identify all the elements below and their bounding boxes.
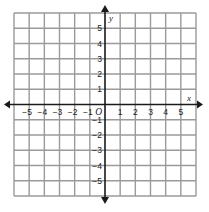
x-axis-left-arrow-icon: [4, 101, 10, 109]
x-tick-label: 2: [133, 107, 138, 117]
x-tick-label: 5: [178, 107, 183, 117]
y-axis-up-arrow-icon: [101, 5, 109, 12]
coordinate-grid-svg: −5−4−3−2−112345−5−4−3−2−112345Oxy: [0, 0, 209, 212]
axes: [4, 5, 203, 204]
y-tick-label: 3: [97, 54, 102, 64]
x-tick-label: −3: [53, 107, 63, 117]
y-tick-label: −3: [92, 145, 102, 155]
x-tick-label: 1: [118, 107, 123, 117]
origin-label: O: [95, 107, 102, 117]
y-tick-label: 4: [97, 39, 102, 49]
x-axis-right-arrow-icon: [197, 101, 203, 109]
y-tick-label: 5: [97, 23, 102, 33]
x-tick-label: −5: [22, 107, 32, 117]
x-tick-label: 3: [148, 107, 153, 117]
y-axis-down-arrow-icon: [101, 197, 109, 204]
x-tick-label: 4: [163, 107, 168, 117]
y-axis-label: y: [108, 13, 113, 23]
x-axis-label: x: [186, 93, 191, 103]
y-tick-label: 2: [97, 69, 102, 79]
y-tick-label: 1: [97, 84, 102, 94]
x-tick-label: −4: [37, 107, 47, 117]
x-tick-label: −2: [68, 107, 78, 117]
y-tick-label: −5: [92, 176, 102, 186]
y-tick-label: −4: [92, 161, 102, 171]
y-tick-label: −2: [92, 130, 102, 140]
